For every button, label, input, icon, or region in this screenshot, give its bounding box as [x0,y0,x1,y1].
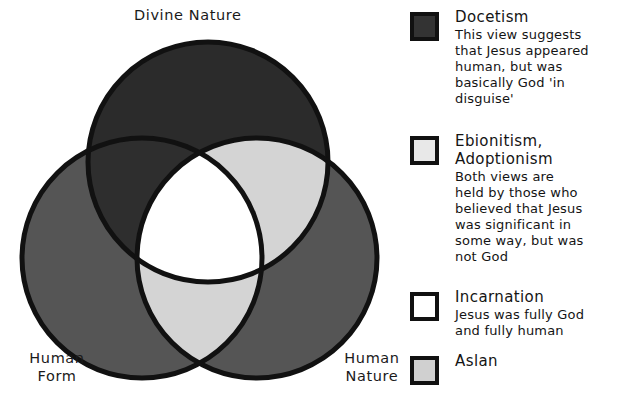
legend-item-ebionitism: Ebionitism, Adoptionism Both views are h… [410,132,628,265]
legend-swatch-aslan [410,356,439,385]
legend-panel: Docetism This view suggests that Jesus a… [400,0,628,412]
legend-title-incarnation: Incarnation [455,288,628,306]
legend-swatch-ebionitism [410,136,439,165]
legend-description-docetism: This view suggests that Jesus appeared h… [455,27,628,107]
venn-diagram-page: Divine Nature Human Form Human Nature Do… [0,0,628,412]
legend-text-incarnation: Incarnation Jesus was fully God and full… [455,288,628,339]
venn-label-divine-nature: Divine Nature [134,6,242,24]
legend-description-incarnation: Jesus was fully God and fully human [455,307,628,339]
legend-text-aslan: Aslan [455,352,628,371]
legend-description-ebionitism: Both views are held by those who believe… [455,169,628,265]
legend-item-incarnation: Incarnation Jesus was fully God and full… [410,288,628,339]
venn-label-human-form: Human Form [14,349,100,385]
legend-title-aslan: Aslan [455,352,628,370]
venn-diagram-panel: Divine Nature Human Form Human Nature [0,0,400,412]
legend-text-ebionitism: Ebionitism, Adoptionism Both views are h… [455,132,628,265]
legend-item-docetism: Docetism This view suggests that Jesus a… [410,8,628,107]
legend-swatch-incarnation [410,292,439,321]
legend-title-docetism: Docetism [455,8,628,26]
legend-swatch-docetism [410,12,439,41]
legend-title-ebionitism: Ebionitism, Adoptionism [455,132,628,168]
legend-item-aslan: Aslan [410,352,628,385]
legend-text-docetism: Docetism This view suggests that Jesus a… [455,8,628,107]
